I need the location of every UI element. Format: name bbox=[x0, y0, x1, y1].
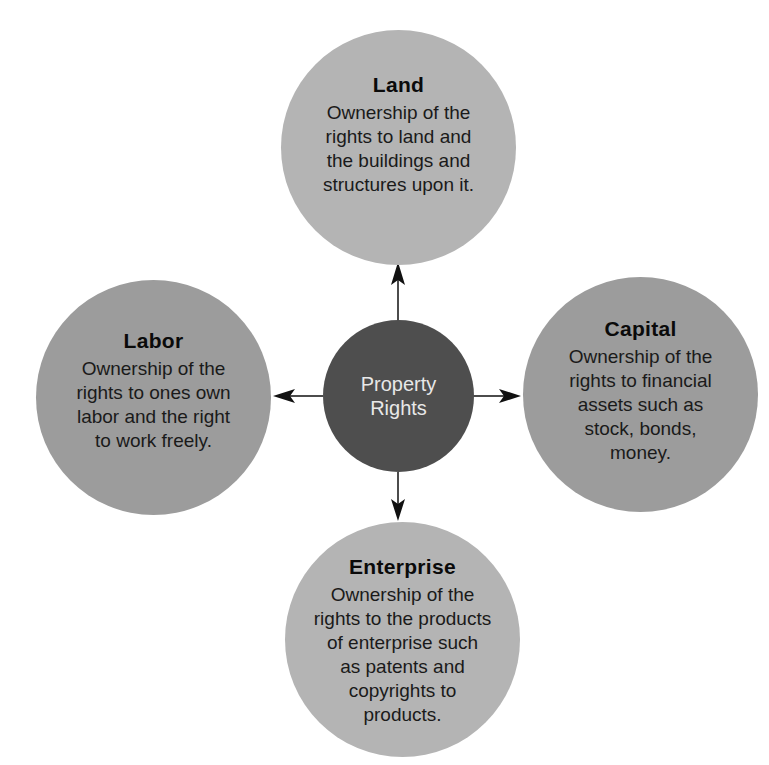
desc-line: copyrights to bbox=[314, 679, 491, 703]
node-capital-description: Ownership of the rights to financial ass… bbox=[569, 345, 713, 465]
arrow-left-to-labor bbox=[273, 389, 323, 403]
desc-line: money. bbox=[569, 441, 713, 465]
desc-line: of enterprise such bbox=[314, 631, 491, 655]
arrow-up-to-land bbox=[391, 262, 405, 321]
node-land-description: Ownership of the rights to land and the … bbox=[323, 101, 474, 197]
node-land: Land Ownership of the rights to land and… bbox=[281, 30, 516, 265]
desc-line: rights to ones own bbox=[76, 381, 230, 405]
desc-line: to work freely. bbox=[76, 429, 230, 453]
desc-line: products. bbox=[314, 703, 491, 727]
node-enterprise-title: Enterprise bbox=[349, 555, 456, 579]
node-property-rights: Property Rights bbox=[323, 320, 474, 472]
node-labor-title: Labor bbox=[124, 329, 184, 353]
desc-line: rights to land and bbox=[323, 125, 474, 149]
desc-line: Ownership of the bbox=[323, 101, 474, 125]
desc-line: the buildings and bbox=[323, 149, 474, 173]
node-capital-title: Capital bbox=[604, 317, 676, 341]
desc-line: Ownership of the bbox=[76, 357, 230, 381]
desc-line: stock, bonds, bbox=[569, 417, 713, 441]
node-land-title: Land bbox=[373, 73, 424, 97]
desc-line: Ownership of the bbox=[569, 345, 713, 369]
node-labor-description: Ownership of the rights to ones own labo… bbox=[76, 357, 230, 453]
desc-line: Ownership of the bbox=[314, 583, 491, 607]
arrow-right-to-capital bbox=[473, 389, 521, 403]
node-capital: Capital Ownership of the rights to finan… bbox=[523, 277, 758, 512]
node-labor: Labor Ownership of the rights to ones ow… bbox=[36, 280, 271, 515]
desc-line: rights to financial bbox=[569, 369, 713, 393]
desc-line: assets such as bbox=[569, 393, 713, 417]
center-label-line-2: Rights bbox=[370, 396, 427, 420]
desc-line: labor and the right bbox=[76, 405, 230, 429]
desc-line: as patents and bbox=[314, 655, 491, 679]
desc-line: structures upon it. bbox=[323, 173, 474, 197]
node-enterprise: Enterprise Ownership of the rights to th… bbox=[285, 522, 520, 757]
node-enterprise-description: Ownership of the rights to the products … bbox=[314, 583, 491, 727]
property-rights-diagram: Land Ownership of the rights to land and… bbox=[0, 0, 769, 765]
center-label-line-1: Property bbox=[361, 372, 437, 396]
desc-line: rights to the products bbox=[314, 607, 491, 631]
arrow-down-to-enterprise bbox=[391, 472, 405, 521]
